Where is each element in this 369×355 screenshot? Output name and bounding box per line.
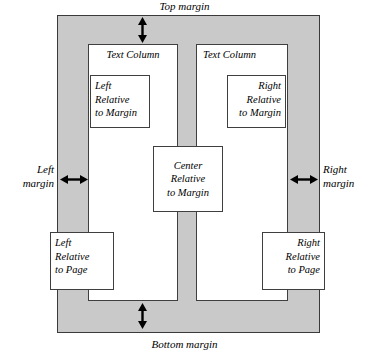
box-left-relative-to-margin: Left Relative to Margin xyxy=(90,75,150,128)
box-center-relative-to-margin: Center Relative to Margin xyxy=(153,146,223,212)
box-left-relative-to-margin-line3: to Margin xyxy=(95,106,145,120)
box-right-relative-to-page-line1: Right xyxy=(267,236,320,250)
box-right-relative-to-page-line2: Relative xyxy=(267,250,320,264)
box-left-relative-to-margin-line1: Left xyxy=(95,79,145,93)
right-margin-label-line1: Right xyxy=(323,163,369,177)
box-left-relative-to-page-line3: to Page xyxy=(55,263,109,277)
top-margin-label: Top margin xyxy=(0,0,369,14)
top-margin-arrow-icon xyxy=(136,17,149,43)
left-margin-label-line1: Left xyxy=(2,163,54,177)
box-right-relative-to-margin: Right Relative to Margin xyxy=(227,75,286,128)
box-center-relative-to-margin-line3: to Margin xyxy=(167,186,209,200)
box-right-relative-to-margin-line2: Relative xyxy=(232,93,281,107)
left-margin-label-line2: margin xyxy=(2,177,54,191)
left-margin-arrow-icon xyxy=(60,172,88,185)
left-margin-label: Left margin xyxy=(2,163,54,190)
text-column-right-label: Text Column xyxy=(203,48,256,61)
box-left-relative-to-page: Left Relative to Page xyxy=(50,232,114,290)
box-right-relative-to-margin-line3: to Margin xyxy=(232,106,281,120)
box-center-relative-to-margin-line2: Relative xyxy=(167,172,209,186)
bottom-margin-arrow-icon xyxy=(136,303,149,329)
box-left-relative-to-page-line1: Left xyxy=(55,236,109,250)
box-right-relative-to-page: Right Relative to Page xyxy=(262,232,325,290)
box-left-relative-to-page-line2: Relative xyxy=(55,250,109,264)
right-margin-label-line2: margin xyxy=(323,177,369,191)
box-center-relative-to-margin-line1: Center xyxy=(167,159,209,173)
right-margin-arrow-icon xyxy=(290,172,318,185)
text-frame-anchoring-diagram: Top margin Text Co xyxy=(0,0,369,355)
box-center-relative-to-margin-text: Center Relative to Margin xyxy=(167,159,209,200)
right-margin-label: Right margin xyxy=(323,163,369,190)
box-right-relative-to-margin-line1: Right xyxy=(232,79,281,93)
bottom-margin-label: Bottom margin xyxy=(0,338,369,352)
box-left-relative-to-margin-line2: Relative xyxy=(95,93,145,107)
box-right-relative-to-page-line3: to Page xyxy=(267,263,320,277)
text-column-left-label: Text Column xyxy=(89,48,177,61)
